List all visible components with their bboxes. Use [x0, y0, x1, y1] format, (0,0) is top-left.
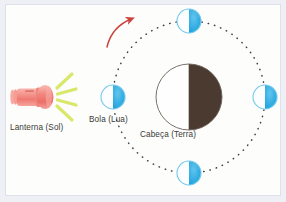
rotation-arrow-icon	[107, 19, 131, 47]
flashlight-sun	[10, 85, 53, 109]
moon-ball-bottom	[177, 161, 201, 185]
moon-ball-right	[253, 85, 277, 109]
earth-sphere	[156, 64, 222, 130]
figure-container: Lanterna (Sol) Bola (Lua) Cabeça (Terra)	[0, 0, 286, 202]
moon-phases-diagram	[0, 0, 286, 202]
label-head-earth: Cabeça (Terra)	[140, 131, 196, 139]
label-flashlight-sun: Lanterna (Sol)	[10, 124, 63, 132]
moon-ball-left	[101, 85, 125, 109]
label-ball-moon: Bola (Lua)	[89, 116, 128, 124]
moon-ball-top	[177, 9, 201, 33]
light-rays-icon	[57, 74, 76, 120]
